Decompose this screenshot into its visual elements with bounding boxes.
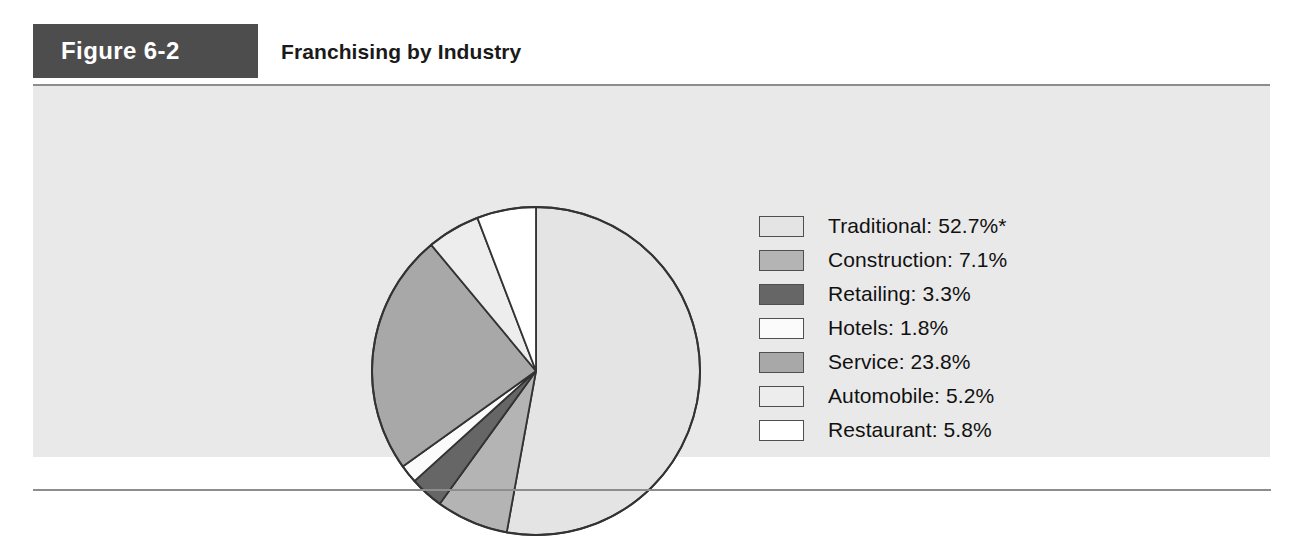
legend-label: Hotels: 1.8%	[828, 316, 948, 340]
pie-chart	[363, 193, 713, 540]
legend-swatch	[759, 386, 804, 407]
legend-item: Construction: 7.1%	[759, 243, 1119, 277]
legend-label: Automobile: 5.2%	[828, 384, 994, 408]
figure-tag-block: Figure 6-2	[33, 24, 258, 78]
bottom-divider	[33, 489, 1271, 491]
figure-header: Figure 6-2 Franchising by Industry	[33, 24, 1270, 78]
legend-label: Construction: 7.1%	[828, 248, 1007, 272]
legend-label: Restaurant: 5.8%	[828, 418, 992, 442]
page-title: Franchising by Industry	[281, 40, 521, 64]
legend-item: Service: 23.8%	[759, 345, 1119, 379]
legend-swatch	[759, 250, 804, 271]
legend-label: Retailing: 3.3%	[828, 282, 971, 306]
legend-label: Traditional: 52.7%*	[828, 214, 1007, 238]
legend-item: Hotels: 1.8%	[759, 311, 1119, 345]
legend-item: Traditional: 52.7%*	[759, 209, 1119, 243]
legend-item: Retailing: 3.3%	[759, 277, 1119, 311]
legend-item: Restaurant: 5.8%	[759, 413, 1119, 447]
pie-chart-svg	[363, 193, 713, 540]
chart-panel: Traditional: 52.7%*Construction: 7.1%Ret…	[33, 84, 1270, 457]
figure-tag-label: Figure 6-2	[61, 37, 180, 65]
legend-label: Service: 23.8%	[828, 350, 971, 374]
legend-swatch	[759, 284, 804, 305]
chart-legend: Traditional: 52.7%*Construction: 7.1%Ret…	[759, 209, 1119, 447]
legend-swatch	[759, 216, 804, 237]
legend-swatch	[759, 318, 804, 339]
legend-item: Automobile: 5.2%	[759, 379, 1119, 413]
legend-swatch	[759, 352, 804, 373]
legend-swatch	[759, 420, 804, 441]
